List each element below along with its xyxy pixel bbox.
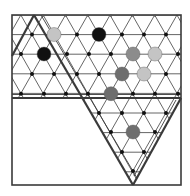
edge-node — [87, 14, 89, 16]
lattice-node — [176, 92, 180, 96]
lattice-node — [131, 169, 135, 173]
grid-line — [0, 0, 1, 196]
lattice-node — [64, 92, 68, 96]
lattice-node — [30, 33, 34, 37]
stone-black — [92, 28, 106, 42]
stone-light-gray — [137, 67, 151, 81]
lattice-node — [120, 111, 124, 115]
edge-node — [132, 14, 134, 16]
lattice-node — [97, 111, 101, 115]
lattice-node — [164, 111, 168, 115]
edge-node — [154, 14, 156, 16]
lattice-node — [87, 52, 91, 56]
lattice-node — [97, 72, 101, 76]
lattice-node — [75, 72, 79, 76]
grid-line — [0, 0, 1, 196]
lattice-node — [153, 130, 157, 134]
lattice-node — [142, 33, 146, 37]
stone-light-gray — [47, 28, 61, 42]
lattice-node — [164, 72, 168, 76]
lattice-node — [176, 52, 180, 56]
lattice-node — [30, 72, 34, 76]
stone-dark-gray — [115, 67, 129, 81]
lattice-node — [164, 33, 168, 37]
lattice-node — [120, 33, 124, 37]
lattice-node — [42, 92, 46, 96]
triangular-board — [0, 0, 190, 196]
lattice-node — [65, 52, 69, 56]
edge-node — [65, 14, 67, 16]
grid-line — [0, 0, 1, 196]
boundary-right-inner — [134, 100, 176, 176]
edge-node — [42, 14, 44, 16]
lattice-node — [109, 130, 113, 134]
boundary-right — [133, 98, 181, 185]
stones — [37, 28, 162, 140]
stone-black — [37, 47, 51, 61]
lattice-node — [109, 52, 113, 56]
lattice-node — [153, 92, 157, 96]
stone-light-gray — [148, 47, 162, 61]
diagram-canvas — [0, 0, 190, 196]
lattice-node — [86, 92, 90, 96]
lattice-node — [131, 92, 135, 96]
lattice-node — [19, 92, 23, 96]
stone-dark-gray — [104, 87, 118, 101]
lattice-node — [52, 72, 56, 76]
lattice-node — [142, 111, 146, 115]
stone-mid-gray — [126, 47, 140, 61]
lattice-node — [75, 33, 79, 37]
lattice-node — [19, 52, 23, 56]
edge-node — [110, 14, 112, 16]
lattice-node — [142, 150, 146, 154]
stone-dark-gray — [126, 125, 140, 139]
grid-line — [0, 0, 1, 196]
lattice-node — [120, 150, 124, 154]
